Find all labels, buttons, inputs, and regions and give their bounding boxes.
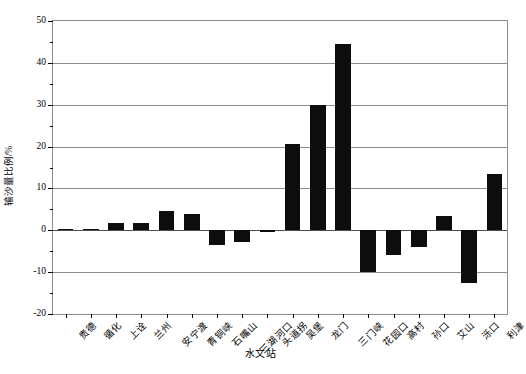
- bar: [209, 230, 225, 245]
- y-axis-minor-tick: [50, 42, 53, 43]
- y-axis-tick: [48, 272, 53, 273]
- y-axis-minor-tick: [50, 84, 53, 85]
- x-axis-tick: [192, 314, 193, 318]
- gridline: [53, 272, 507, 273]
- y-axis-minor-tick: [50, 168, 53, 169]
- x-axis-tick: [242, 314, 243, 318]
- x-axis-tick-label: 循化: [102, 320, 123, 341]
- bar: [411, 230, 427, 247]
- y-axis-minor-tick: [50, 126, 53, 127]
- bar: [386, 230, 402, 255]
- x-axis-tick-label: 孙口: [430, 320, 451, 341]
- x-axis-tick: [444, 314, 445, 318]
- y-axis-minor-tick: [50, 209, 53, 210]
- x-axis-tick-label: 兰州: [152, 320, 173, 341]
- y-axis-tick: [48, 188, 53, 189]
- y-axis-minor-tick: [50, 251, 53, 252]
- x-axis-tick: [91, 314, 92, 318]
- y-axis-tick: [48, 230, 53, 231]
- x-axis-tick: [267, 314, 268, 318]
- x-axis-tick-label: 艾山: [455, 320, 476, 341]
- bar: [234, 230, 250, 242]
- x-axis-tick: [318, 314, 319, 318]
- bar: [461, 230, 477, 282]
- x-axis-tick-label: 吴堡: [303, 320, 324, 341]
- x-axis-tick: [394, 314, 395, 318]
- gridline: [53, 105, 507, 106]
- plot-area: -20-1001020304050: [52, 20, 508, 315]
- y-axis-tick: [48, 147, 53, 148]
- y-axis-minor-tick: [50, 293, 53, 294]
- x-axis-tick: [368, 314, 369, 318]
- gridline: [53, 147, 507, 148]
- y-axis-tick: [48, 21, 53, 22]
- gridline: [53, 188, 507, 189]
- x-axis-tick-label: 贵德: [76, 320, 97, 341]
- y-axis-title-text: 输沙量比例/%: [4, 128, 15, 224]
- y-axis-tick-label: 0: [16, 226, 46, 236]
- x-axis-tick: [494, 314, 495, 318]
- y-axis-tick-label: 40: [16, 58, 46, 68]
- bar: [436, 216, 452, 230]
- y-axis-tick-label: 10: [16, 184, 46, 194]
- x-axis-tick: [419, 314, 420, 318]
- x-axis-tick-label: 龙门: [329, 320, 350, 341]
- x-axis-tick-label: 泺口: [480, 320, 501, 341]
- x-axis-tick: [293, 314, 294, 318]
- bar: [310, 105, 326, 231]
- bar: [108, 223, 124, 231]
- bar: [360, 230, 376, 272]
- bar: [184, 214, 200, 230]
- y-axis-tick-label: 30: [16, 100, 46, 110]
- bar: [285, 144, 301, 230]
- x-axis-tick: [141, 314, 142, 318]
- x-axis-tick: [66, 314, 67, 318]
- bar: [335, 44, 351, 230]
- x-axis-tick: [167, 314, 168, 318]
- x-axis-tick: [116, 314, 117, 318]
- y-axis-tick: [48, 63, 53, 64]
- y-axis-tick-label: -10: [16, 267, 46, 277]
- y-axis-tick-label: 50: [16, 16, 46, 26]
- bar: [83, 229, 99, 231]
- x-axis-tick: [217, 314, 218, 318]
- x-axis-tick: [469, 314, 470, 318]
- bar: [260, 230, 276, 232]
- y-axis-tick-label: -20: [16, 309, 46, 319]
- y-axis-tick: [48, 105, 53, 106]
- gridline: [53, 63, 507, 64]
- bar: [159, 211, 175, 230]
- y-axis-tick: [48, 314, 53, 315]
- bar: [58, 229, 74, 230]
- x-axis-tick-label: 高村: [404, 320, 425, 341]
- x-axis-tick-label: 上诠: [127, 320, 148, 341]
- x-axis-tick: [343, 314, 344, 318]
- bar: [133, 223, 149, 231]
- zero-line: [53, 230, 507, 231]
- bar: [487, 174, 503, 231]
- x-axis-tick-label: 利津: [505, 320, 526, 341]
- y-axis-tick-label: 20: [16, 142, 46, 152]
